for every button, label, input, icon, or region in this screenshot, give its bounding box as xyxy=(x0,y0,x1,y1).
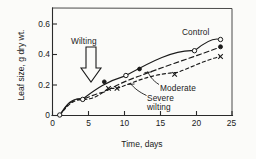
y-tick-label-0-6: 0.6 xyxy=(25,19,50,29)
y-axis-title: Leaf size, g dry wt. xyxy=(16,13,26,117)
leader-line-severe xyxy=(128,84,147,96)
x-tick-label-15: 15 xyxy=(153,118,168,128)
series-label-control: Control xyxy=(182,28,209,37)
x-tick-label-10: 10 xyxy=(117,118,132,128)
series-label-severe: Severe wilting xyxy=(147,94,174,113)
x-axis-title: Time, days xyxy=(52,139,232,149)
y-tick-marks xyxy=(53,24,58,116)
annotation-wilting: Wilting xyxy=(71,37,97,46)
y-tick-label-0-2: 0.2 xyxy=(25,80,50,90)
series-label-severe-line2: wilting xyxy=(147,103,174,112)
y-tick-label-0-4: 0.4 xyxy=(25,49,50,59)
series-label-moderate: Moderate xyxy=(160,84,196,93)
series-markers-control xyxy=(58,37,223,117)
series-line-severe xyxy=(60,57,221,116)
series-line-moderate xyxy=(60,47,221,116)
x-tick-label-20: 20 xyxy=(189,118,204,128)
wilting-arrow-icon xyxy=(81,47,101,82)
x-tick-marks xyxy=(53,111,233,116)
x-tick-label-25: 25 xyxy=(224,118,239,128)
plot-frame-top xyxy=(52,8,232,9)
x-tick-label-0: 0 xyxy=(45,118,60,128)
chart-figure: 0 0.2 0.4 0.6 0 5 10 15 20 25 Leaf size,… xyxy=(0,0,256,159)
x-tick-label-5: 5 xyxy=(81,118,96,128)
